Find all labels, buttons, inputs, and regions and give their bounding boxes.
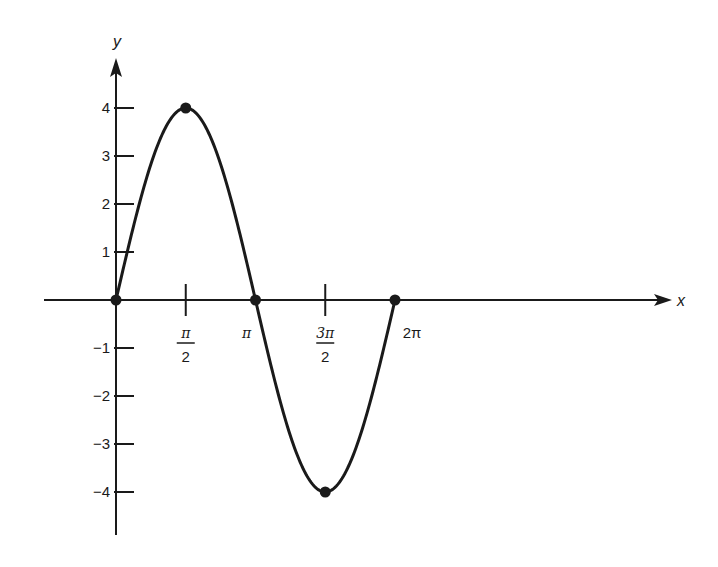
x-tick-label: 2π (403, 324, 422, 341)
data-point (180, 103, 191, 114)
data-point (390, 295, 401, 306)
x-tick-label-denominator: 2 (321, 348, 329, 365)
y-tick-label: 2 (102, 195, 110, 212)
y-tick-label: 4 (102, 99, 110, 116)
data-point (111, 295, 122, 306)
y-axis-label: y (112, 33, 122, 50)
axes (44, 72, 660, 535)
x-tick-label: π (241, 325, 252, 341)
data-point (320, 487, 331, 498)
x-tick-label-numerator: π (180, 325, 191, 341)
y-tick-label: 3 (102, 147, 110, 164)
data-point (250, 295, 261, 306)
y-tick-label: −4 (93, 483, 110, 500)
x-tick-label-numerator: 3π (316, 325, 335, 341)
y-tick-label: 1 (102, 243, 110, 260)
y-tick-label: −1 (93, 339, 110, 356)
x-ticks: π2π3π22π (177, 284, 422, 365)
x-tick-label-denominator: 2 (182, 348, 190, 365)
sine-graph: x y 4321−1−2−3−4 π2π3π22π (0, 0, 718, 567)
y-tick-label: −3 (93, 435, 110, 452)
x-axis-label: x (676, 292, 686, 309)
y-tick-label: −2 (93, 387, 110, 404)
